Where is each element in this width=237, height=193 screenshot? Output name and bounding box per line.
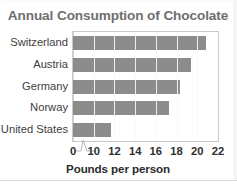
category-label: Austria (33, 57, 68, 71)
category-label: United States (1, 122, 68, 136)
category-axis-labels: SwitzerlandAustriaGermanyNorwayUnited St… (3, 31, 70, 142)
chart-title: Annual Consumption of Chocolate (3, 8, 233, 23)
category-label: Switzerland (10, 35, 68, 49)
bar-germany (73, 80, 180, 94)
category-label: Norway (30, 100, 68, 114)
x-tick-label: 22 (212, 145, 224, 157)
plot-area (72, 31, 219, 142)
chart-figure: Annual Consumption of Chocolate Switzerl… (0, 0, 237, 193)
bar-united-states (73, 123, 111, 137)
bar-norway (73, 101, 169, 115)
x-axis-title: Pounds per person (3, 162, 233, 175)
page-edge-right (233, 0, 237, 183)
bar-row (73, 58, 218, 72)
x-tick-label: 18 (170, 145, 182, 157)
bar-switzerland (73, 36, 206, 50)
x-tick-label: 0 (70, 145, 76, 157)
x-tick-label: 10 (87, 145, 99, 157)
bar-row (73, 123, 218, 137)
chart-card: Annual Consumption of Chocolate Switzerl… (3, 2, 233, 181)
x-tick-label: 14 (129, 145, 141, 157)
bar-row (73, 36, 218, 50)
caption-ghost-text (8, 184, 10, 193)
caption-strip (0, 180, 237, 193)
x-tick-label: 12 (108, 145, 120, 157)
gridline-overlay (218, 32, 219, 141)
category-label: Germany (22, 79, 68, 93)
x-axis-tick-labels: 010121416182022 (72, 145, 219, 159)
gridline (218, 32, 219, 141)
x-tick-label: 20 (191, 145, 203, 157)
x-tick-label: 16 (150, 145, 162, 157)
bar-series (73, 32, 218, 141)
bar-row (73, 80, 218, 94)
bar-row (73, 101, 218, 115)
bar-austria (73, 58, 191, 72)
